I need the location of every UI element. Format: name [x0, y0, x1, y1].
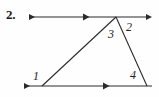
angle-label-3: 3 [108, 28, 114, 40]
figure-canvas: 2. 1 2 3 4 [0, 0, 159, 97]
top-parallel-tick-icon [83, 14, 90, 21]
angle-label-1: 1 [33, 70, 39, 82]
geometry-diagram [0, 0, 159, 97]
angle-label-4: 4 [130, 69, 136, 81]
angle-label-2: 2 [126, 21, 132, 33]
problem-number: 2. [6, 8, 15, 21]
bottom-parallel-tick-icon [103, 83, 110, 90]
triangle-side-left [42, 17, 116, 86]
